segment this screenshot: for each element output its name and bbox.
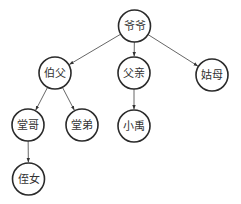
node-label: 伯父 xyxy=(44,66,66,80)
edges-layer xyxy=(28,34,198,162)
node-label: 父亲 xyxy=(123,66,145,80)
node-bofu: 伯父 xyxy=(39,57,71,89)
edge-arrow-yeye-to-bofu xyxy=(69,34,120,64)
node-label: 小禹 xyxy=(123,120,145,133)
edge-arrow-bofu-to-tangge xyxy=(36,87,48,110)
edge-arrow-bofu-to-tangdi xyxy=(62,87,74,110)
nodes-layer: 爷爷 伯父 父亲 姑母 堂哥 堂弟 小禹 侄女 xyxy=(12,10,228,195)
node-label: 爷爷 xyxy=(124,19,146,33)
node-label: 堂哥 xyxy=(17,119,39,132)
node-fuqin: 父亲 xyxy=(118,57,150,89)
node-yeye: 爷爷 xyxy=(119,10,151,42)
node-tangge: 堂哥 xyxy=(12,109,44,141)
node-gumu: 姑母 xyxy=(196,59,228,91)
family-tree-diagram: 爷爷 伯父 父亲 姑母 堂哥 堂弟 小禹 侄女 xyxy=(0,0,241,204)
node-label: 姑母 xyxy=(201,69,223,82)
node-label: 侄女 xyxy=(18,172,40,186)
node-label: 堂弟 xyxy=(71,119,93,132)
node-zhinv: 侄女 xyxy=(13,163,45,195)
node-xiaoyu: 小禹 xyxy=(118,110,150,142)
edge-arrow-yeye-to-gumu xyxy=(148,35,198,66)
node-tangdi: 堂弟 xyxy=(66,109,98,141)
